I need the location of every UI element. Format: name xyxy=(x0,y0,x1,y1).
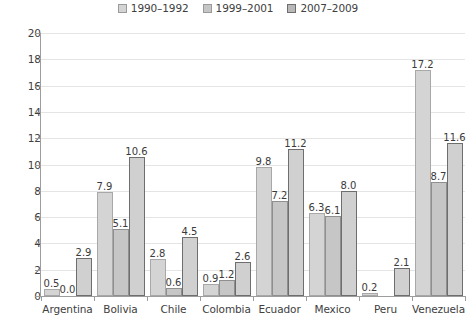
bar-chart: 1990–19921999–20012007–2009 024681012141… xyxy=(0,0,476,330)
x-tick-mark xyxy=(41,296,42,301)
legend-item-1[interactable]: 1999–2001 xyxy=(203,2,274,14)
bar[interactable]: 8.0 xyxy=(341,191,357,296)
bar-group-bars: 2.80.64.5 xyxy=(150,33,198,296)
x-tick-mark xyxy=(465,296,466,301)
bar-value-label: 6.3 xyxy=(309,203,325,213)
bar-groups: 0.50.02.97.95.110.62.80.64.50.91.22.69.8… xyxy=(41,33,465,296)
bar[interactable]: 7.9 xyxy=(97,192,113,296)
bar-value-label: 1.2 xyxy=(219,270,235,280)
bar[interactable]: 2.8 xyxy=(150,259,166,296)
bar[interactable]: 2.9 xyxy=(76,258,92,296)
bar[interactable]: 0.5 xyxy=(44,289,60,296)
bar-group-bars: 0.50.02.9 xyxy=(44,33,92,296)
legend-label: 1990–1992 xyxy=(131,2,189,14)
bar-value-label: 0.2 xyxy=(362,283,378,293)
legend-swatch-icon xyxy=(203,4,212,13)
bar-value-label: 2.9 xyxy=(76,248,92,258)
bar[interactable]: 11.6 xyxy=(447,143,463,296)
bar[interactable]: 0.9 xyxy=(203,284,219,296)
chart-legend: 1990–19921999–20012007–2009 xyxy=(0,2,476,14)
bar[interactable]: 10.6 xyxy=(129,157,145,296)
bar-group: 2.80.64.5 xyxy=(147,33,200,296)
bar-value-label: 8.7 xyxy=(431,172,447,182)
bar-group-bars: 9.87.211.2 xyxy=(256,33,304,296)
bar[interactable]: 0.2 xyxy=(362,293,378,296)
x-tick-mark xyxy=(94,296,95,301)
bar-group-bars: 0.91.22.6 xyxy=(203,33,251,296)
bar-group-bars: 17.28.711.6 xyxy=(415,33,463,296)
bar-value-label: 6.1 xyxy=(325,206,341,216)
bar[interactable]: 2.1 xyxy=(394,268,410,296)
bar-group: 7.95.110.6 xyxy=(94,33,147,296)
x-axis-label: Ecuador xyxy=(253,303,306,315)
bar-group: 9.87.211.2 xyxy=(253,33,306,296)
bar-group: 17.28.711.6 xyxy=(412,33,465,296)
x-axis-label: Venezuela xyxy=(412,303,465,315)
bar[interactable]: 17.2 xyxy=(415,70,431,296)
legend-label: 2007–2009 xyxy=(300,2,358,14)
bar[interactable]: 11.2 xyxy=(288,149,304,296)
legend-swatch-icon xyxy=(118,4,127,13)
x-axis-label: Bolivia xyxy=(94,303,147,315)
bar-group: 0.91.22.6 xyxy=(200,33,253,296)
x-axis-label: Peru xyxy=(359,303,412,315)
x-axis-label: Argentina xyxy=(41,303,94,315)
bar-group-bars: 6.36.18.0 xyxy=(309,33,357,296)
bar[interactable]: 7.2 xyxy=(272,201,288,296)
bar-value-label: 7.9 xyxy=(97,182,113,192)
x-tick-mark xyxy=(359,296,360,301)
bar-group-bars: 7.95.110.6 xyxy=(97,33,145,296)
x-axis-label: Colombia xyxy=(200,303,253,315)
bar-value-label: 8.0 xyxy=(341,181,357,191)
bar-value-label: 2.8 xyxy=(150,249,166,259)
bar[interactable]: 2.6 xyxy=(235,262,251,296)
bar[interactable]: 1.2 xyxy=(219,280,235,296)
legend-swatch-icon xyxy=(287,4,296,13)
bar-group-bars: 0.22.1 xyxy=(362,33,410,296)
bar-group: 0.50.02.9 xyxy=(41,33,94,296)
bar-value-label: 11.6 xyxy=(443,133,465,143)
x-tick-mark xyxy=(253,296,254,301)
bar-value-label: 17.2 xyxy=(411,60,433,70)
x-tick-mark xyxy=(147,296,148,301)
y-axis-labels: 02468101214161820 xyxy=(0,0,41,330)
bar-group: 6.36.18.0 xyxy=(306,33,359,296)
bar[interactable]: 6.3 xyxy=(309,213,325,296)
bar-value-label: 2.6 xyxy=(235,252,251,262)
legend-item-2[interactable]: 2007–2009 xyxy=(287,2,358,14)
x-tick-mark xyxy=(200,296,201,301)
bar[interactable]: 5.1 xyxy=(113,229,129,296)
bar[interactable]: 9.8 xyxy=(256,167,272,296)
bar-value-label: 7.2 xyxy=(272,191,288,201)
bar-value-label: 10.6 xyxy=(125,147,147,157)
x-axis-label: Chile xyxy=(147,303,200,315)
bar-value-label: 0.6 xyxy=(166,278,182,288)
bar-value-label: 2.1 xyxy=(394,258,410,268)
x-axis-label: Mexico xyxy=(306,303,359,315)
bar-value-label: 11.2 xyxy=(284,139,306,149)
bar-group: 0.22.1 xyxy=(359,33,412,296)
x-tick-mark xyxy=(412,296,413,301)
bar[interactable]: 4.5 xyxy=(182,237,198,296)
bar[interactable]: 8.7 xyxy=(431,182,447,296)
bar-value-label: 0.5 xyxy=(44,279,60,289)
bar[interactable]: 6.1 xyxy=(325,216,341,296)
bar-value-label: 0.0 xyxy=(60,285,76,295)
legend-label: 1999–2001 xyxy=(216,2,274,14)
legend-item-0[interactable]: 1990–1992 xyxy=(118,2,189,14)
bar-value-label: 9.8 xyxy=(256,157,272,167)
bar[interactable]: 0.6 xyxy=(166,288,182,296)
x-axis-labels: ArgentinaBoliviaChileColombiaEcuadorMexi… xyxy=(41,303,465,315)
bar-value-label: 5.1 xyxy=(113,219,129,229)
bar-value-label: 4.5 xyxy=(182,227,198,237)
x-tick-mark xyxy=(306,296,307,301)
bar-value-label: 0.9 xyxy=(203,274,219,284)
